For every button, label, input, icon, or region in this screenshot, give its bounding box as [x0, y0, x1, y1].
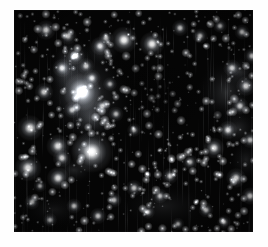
sky-image-panel: [14, 10, 253, 232]
astro-figure: [0, 0, 268, 247]
sky-image-canvas: [14, 10, 253, 232]
